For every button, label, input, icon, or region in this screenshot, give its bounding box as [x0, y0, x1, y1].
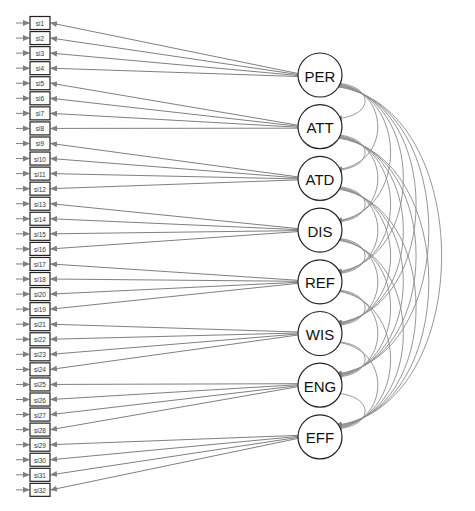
indicator-si20[interactable]: si20 [30, 288, 50, 301]
loading-arrow [51, 113, 298, 127]
covariance-ATT-REF [336, 136, 391, 273]
covariance-ATT-WIS [336, 137, 404, 324]
indicator-label: si22 [34, 336, 46, 343]
indicator-si31[interactable]: si31 [30, 468, 50, 481]
loading-arrow [51, 438, 298, 489]
covariance-PER-REF [336, 85, 404, 272]
indicator-label: si32 [34, 487, 46, 494]
indicator-label: si18 [34, 276, 46, 283]
indicator-label: si19 [34, 306, 46, 313]
indicator-label: si28 [34, 427, 46, 434]
covariance-DIS-ENG [336, 239, 391, 376]
indicator-si5[interactable]: si5 [30, 77, 50, 90]
indicator-si1[interactable]: si1 [30, 17, 50, 30]
indicator-si19[interactable]: si19 [30, 303, 50, 316]
covariance-PER-WIS [336, 85, 416, 323]
loading-arrow [51, 231, 298, 234]
loading-arrow [51, 282, 298, 294]
indicator-label: si11 [34, 171, 46, 178]
indicator-si9[interactable]: si9 [30, 137, 50, 150]
indicator-label: si14 [34, 216, 46, 223]
indicator-si27[interactable]: si27 [30, 408, 50, 421]
factor-loadings [51, 23, 298, 490]
indicator-si14[interactable]: si14 [30, 212, 50, 225]
indicator-label: si31 [34, 472, 46, 479]
loading-arrow [51, 83, 298, 125]
covariance-PER-DIS [336, 84, 391, 221]
latent-ATD[interactable]: ATD [298, 156, 342, 200]
loading-arrow [51, 387, 298, 430]
latent-DIS[interactable]: DIS [298, 208, 342, 252]
indicator-si11[interactable]: si11 [30, 167, 50, 180]
loading-arrow [51, 334, 298, 354]
loading-arrow [51, 385, 298, 400]
indicator-label: si15 [34, 231, 46, 238]
indicator-label: si5 [36, 80, 45, 87]
indicator-label: si1 [36, 20, 45, 27]
latent-label: EFF [306, 429, 334, 446]
indicator-si18[interactable]: si18 [30, 273, 50, 286]
loading-arrow [51, 333, 298, 339]
indicator-label: si23 [34, 351, 46, 358]
indicator-si29[interactable]: si29 [30, 438, 50, 451]
indicator-label: si8 [36, 125, 45, 132]
indicator-si8[interactable]: si8 [30, 122, 50, 135]
covariance-ATD-WIS [336, 188, 391, 325]
indicator-label: si6 [36, 95, 45, 102]
loading-arrow [51, 324, 298, 332]
latent-WIS[interactable]: WIS [298, 312, 342, 356]
loading-arrow [51, 264, 298, 280]
indicator-si16[interactable]: si16 [30, 242, 50, 255]
indicator-label: si30 [34, 457, 46, 464]
latent-ATT[interactable]: ATT [298, 105, 342, 149]
indicator-si7[interactable]: si7 [30, 107, 50, 120]
latent-label: ENG [304, 378, 337, 395]
latent-label: ATD [306, 171, 335, 188]
indicator-si13[interactable]: si13 [30, 197, 50, 210]
indicator-si30[interactable]: si30 [30, 453, 50, 466]
indicator-si22[interactable]: si22 [30, 333, 50, 346]
factor-covariances [336, 83, 442, 429]
indicator-label: si29 [34, 442, 46, 449]
latent-label: REF [305, 274, 335, 291]
latent-label: DIS [307, 223, 332, 240]
latent-REF[interactable]: REF [298, 260, 342, 304]
indicator-si25[interactable]: si25 [30, 378, 50, 391]
indicator-si23[interactable]: si23 [30, 348, 50, 361]
indicator-si4[interactable]: si4 [30, 62, 50, 75]
loading-arrow [51, 174, 298, 179]
residual-arrows [16, 23, 29, 490]
covariance-ATD-ENG [336, 188, 404, 375]
covariance-DIS-EFF [336, 240, 404, 427]
loading-arrow [51, 219, 298, 230]
latent-EFF[interactable]: EFF [298, 415, 342, 459]
latent-PER[interactable]: PER [298, 53, 342, 97]
indicator-si32[interactable]: si32 [30, 483, 50, 496]
loading-arrow [51, 23, 298, 74]
latent-label: ATT [306, 119, 333, 136]
indicator-label: si2 [36, 35, 45, 42]
indicator-si3[interactable]: si3 [30, 47, 50, 60]
indicator-si10[interactable]: si10 [30, 152, 50, 165]
indicator-si21[interactable]: si21 [30, 318, 50, 331]
indicator-si6[interactable]: si6 [30, 92, 50, 105]
indicator-label: si21 [34, 321, 46, 328]
loading-arrow [51, 204, 298, 229]
indicator-label: si17 [34, 261, 46, 268]
indicator-label: si9 [36, 140, 45, 147]
indicator-si28[interactable]: si28 [30, 423, 50, 436]
covariance-ATD-EFF [336, 189, 416, 427]
indicator-si15[interactable]: si15 [30, 227, 50, 240]
latent-label: WIS [306, 326, 334, 343]
indicator-label: si12 [34, 186, 46, 193]
loading-arrow [51, 159, 298, 178]
latent-nodes: PERATTATDDISREFWISENGEFF [298, 53, 342, 459]
indicator-si24[interactable]: si24 [30, 363, 50, 376]
indicator-si26[interactable]: si26 [30, 393, 50, 406]
indicator-label: si3 [36, 50, 45, 57]
latent-ENG[interactable]: ENG [298, 363, 342, 407]
indicator-si17[interactable]: si17 [30, 257, 50, 270]
indicator-label: si13 [34, 201, 46, 208]
indicator-si2[interactable]: si2 [30, 32, 50, 45]
indicator-si12[interactable]: si12 [30, 182, 50, 195]
